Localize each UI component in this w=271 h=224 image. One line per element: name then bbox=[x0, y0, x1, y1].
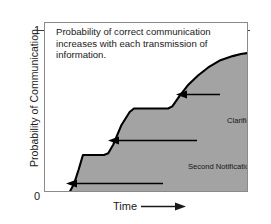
x-axis-group: Time bbox=[113, 200, 187, 212]
annotation-label-clarification: Clarification bbox=[227, 116, 248, 125]
y-axis-title: Probability of Communication bbox=[28, 13, 40, 183]
right-arrow-icon bbox=[141, 202, 187, 211]
chart-note-text: Probability of correct communication inc… bbox=[56, 26, 236, 61]
plot-area: Probability of correct communication inc… bbox=[44, 22, 248, 192]
chart-page: Probability of Communication 1 0 bbox=[0, 0, 271, 224]
x-axis-title: Time bbox=[113, 200, 137, 212]
y-tick-label-0: 0 bbox=[26, 190, 40, 202]
annotation-label-second-notification: Second Notification bbox=[188, 162, 248, 171]
probability-area-fill bbox=[45, 53, 248, 192]
